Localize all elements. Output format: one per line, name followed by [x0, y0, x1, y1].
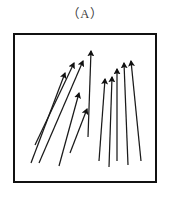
figure-panel-a: （A）	[0, 0, 170, 200]
field-arrow	[124, 63, 128, 165]
field-arrow	[99, 79, 105, 161]
vector-field-diagram	[13, 33, 157, 183]
field-arrow	[88, 51, 91, 137]
arrow-group	[31, 51, 141, 167]
field-arrow	[39, 61, 83, 163]
figure-caption: （A）	[0, 6, 170, 22]
field-arrow	[59, 93, 79, 166]
field-arrow	[109, 77, 112, 167]
field-arrow	[131, 61, 141, 161]
